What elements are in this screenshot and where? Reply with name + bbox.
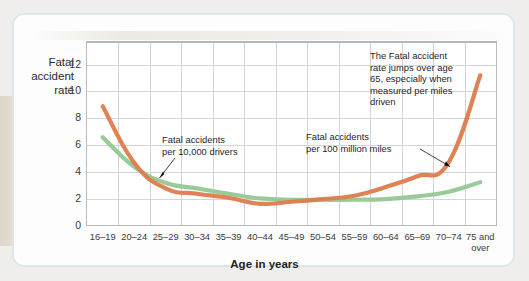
x-axis-tick-label: 75 andover: [457, 232, 503, 254]
y-axis-tick-label: 6: [59, 138, 81, 150]
annotation-line: Fatal accidents: [306, 131, 422, 143]
y-axis-tick-label: 2: [59, 192, 81, 204]
y-axis-tick-label: 8: [59, 111, 81, 123]
annotation-line: 65, especially when: [370, 73, 490, 85]
series-line-green: [103, 137, 481, 200]
annotation-line: Fatal accidents: [162, 134, 270, 146]
annotation-line: rate jumps over age: [370, 62, 490, 74]
annotation-line: driven: [370, 96, 490, 108]
annotation-line: per 100 million miles: [306, 143, 422, 155]
x-axis-tick-label-line: over: [457, 243, 503, 254]
annotation-line: The Fatal accident: [370, 50, 490, 62]
x-axis-tick-label-line: 75 and: [457, 232, 503, 243]
annotation-line: measured per miles: [370, 85, 490, 97]
x-axis-title: Age in years: [0, 258, 529, 270]
annotation-orange-series: Fatal accidents per 100 million miles: [306, 131, 422, 154]
y-axis-tick-label: 4: [59, 165, 81, 177]
figure-container: Fatal accident rate 024681012 16–1920–24…: [0, 0, 529, 281]
y-axis-tick-label: 0: [59, 219, 81, 231]
y-axis-tick-label: 10: [59, 84, 81, 96]
y-axis-title-line-2: accident: [12, 69, 74, 83]
y-axis-tick-label: 12: [59, 58, 81, 70]
annotation-line: per 10,000 drivers: [162, 146, 270, 158]
annotation-elderly-jump: The Fatal accident rate jumps over age 6…: [370, 50, 490, 108]
annotation-green-series: Fatal accidents per 10,000 drivers: [162, 134, 270, 157]
line-chart: Fatal accident rate 024681012 16–1920–24…: [0, 0, 529, 281]
